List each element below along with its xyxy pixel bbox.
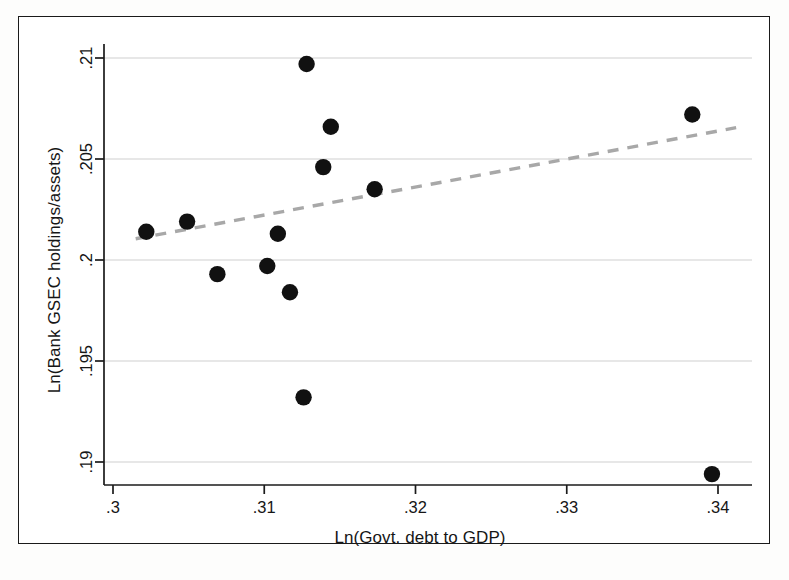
x-tick-labels: .3.31.32.33.34 (106, 498, 729, 516)
y-tick-labels: .19.195.2.205.21 (77, 47, 95, 474)
fit-line (136, 128, 736, 239)
regression-fit-line (136, 128, 736, 239)
grid-lines (104, 58, 752, 462)
y-axis-title: Ln(Bank GSEC holdings/assets) (45, 147, 64, 394)
data-point (323, 118, 339, 134)
y-tick-label: .195 (77, 345, 95, 377)
y-tick-label: .19 (77, 451, 95, 474)
data-point (366, 181, 382, 197)
tick-marks (95, 58, 718, 494)
data-point (704, 466, 720, 482)
data-point (684, 106, 700, 122)
x-tick-label: .34 (707, 498, 730, 516)
x-tick-label: .33 (555, 498, 578, 516)
data-point (282, 284, 298, 300)
y-tick-label: .2 (77, 253, 95, 267)
x-axis-title: Ln(Govt. debt to GDP) (334, 528, 505, 547)
figure-root: .3.31.32.33.34 .19.195.2.205.21 Ln(Govt.… (0, 0, 789, 580)
data-point (179, 213, 195, 229)
data-points (138, 56, 720, 482)
x-tick-label: .31 (253, 498, 276, 516)
data-point (315, 159, 331, 175)
x-tick-label: .32 (404, 498, 427, 516)
chart-canvas: .3.31.32.33.34 .19.195.2.205.21 Ln(Govt.… (0, 0, 789, 580)
data-point (209, 266, 225, 282)
scatter-plot: .3.31.32.33.34 .19.195.2.205.21 Ln(Govt.… (0, 0, 789, 580)
axis-lines (104, 44, 752, 485)
data-point (295, 389, 311, 405)
data-point (259, 258, 275, 274)
data-point (138, 224, 154, 240)
y-tick-label: .205 (77, 143, 95, 175)
data-point (298, 56, 314, 72)
data-point (270, 226, 286, 242)
x-tick-label: .3 (106, 498, 120, 516)
y-tick-label: .21 (77, 47, 95, 70)
